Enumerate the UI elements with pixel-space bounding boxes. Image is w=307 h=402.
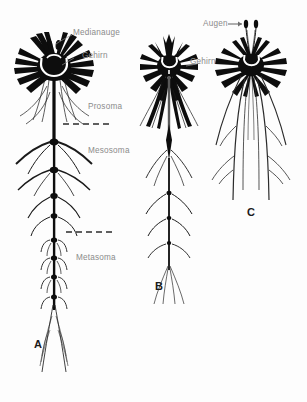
label-gehirn-b: Gehirn [190,58,216,66]
label-gehirn-a: Gehirn [82,52,108,60]
panel-c-descending-trunks [216,76,286,200]
anatomical-figure: Medianauge Gehirn Prosoma Mesosoma Metas… [0,0,307,402]
label-metasoma: Metasoma [76,254,116,262]
panel-c-organism [212,20,290,200]
panel-b-spindle-ganglion [166,124,172,160]
panel-a-terminal-nerves [40,305,68,372]
panel-c-brain-body [238,54,264,76]
label-mesosoma: Mesosoma [88,147,130,155]
label-medianauge: Medianauge [73,29,120,37]
panel-letter-c: C [247,207,255,218]
label-augen: Augen [203,20,228,28]
panel-a-nerve-cord-upper [52,78,55,140]
panel-c-leader-arrow [228,22,242,27]
panel-b-organism [140,34,200,304]
panel-a-brain-body [37,53,71,81]
panel-letter-a: A [34,339,42,350]
nervous-system-diagram [0,0,307,402]
panel-c-lateral-branches [212,126,290,184]
label-prosoma: Prosoma [88,103,122,111]
panel-a-organism [14,32,115,372]
panel-b-brain-body [157,55,181,77]
panel-a-nerve-cord-lower [53,140,55,310]
panel-b-nerve-cord-lower [168,158,170,270]
panel-letter-b: B [155,281,163,292]
